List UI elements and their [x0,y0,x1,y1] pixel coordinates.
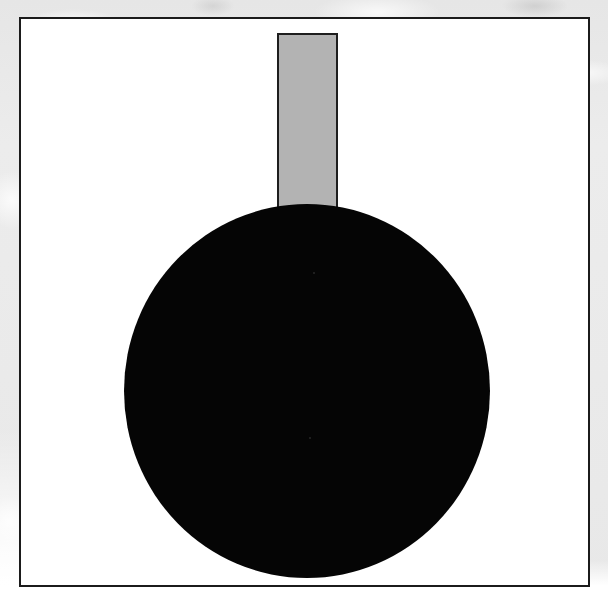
black-disc [124,204,490,578]
figure-border [19,17,590,587]
scan-speck [313,272,315,274]
stem-rectangle [277,33,338,215]
scan-speck [309,437,311,439]
scanned-page [0,0,608,606]
figure-canvas [21,19,588,585]
